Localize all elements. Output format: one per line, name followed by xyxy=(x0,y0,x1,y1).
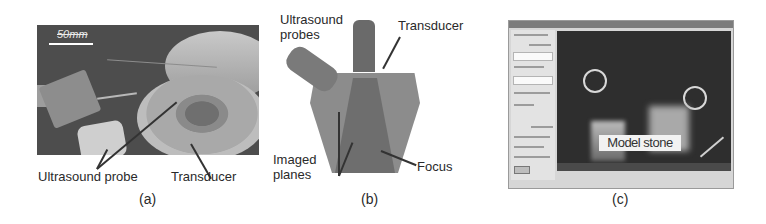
echo-streak xyxy=(700,137,724,158)
label-transducer: Transducer xyxy=(398,19,463,33)
panel-c-software-screenshot: Model stone xyxy=(508,20,734,189)
panel-a-photo: 50mm xyxy=(37,25,259,155)
text-line xyxy=(514,92,550,94)
label-ultrasound-probes: Ultrasound probes xyxy=(280,12,338,42)
ultrasound-image: Model stone xyxy=(557,31,731,171)
text-line xyxy=(531,126,553,128)
caption-c: (c) xyxy=(612,191,628,207)
label-text: Imaged planes xyxy=(273,152,325,182)
text-line xyxy=(514,34,548,36)
button xyxy=(514,166,530,174)
label-imaged-planes: Imaged planes xyxy=(273,152,325,182)
input-field xyxy=(513,52,553,61)
input-field xyxy=(513,76,553,85)
status-bar xyxy=(557,163,731,171)
transducer-body xyxy=(353,20,375,72)
window-titlebar xyxy=(509,21,733,28)
target-circle xyxy=(583,69,607,93)
model-stone-label: Model stone xyxy=(599,135,681,151)
caption-a: (a) xyxy=(139,191,156,207)
leader-line xyxy=(338,112,340,176)
wire xyxy=(97,92,137,100)
text-line xyxy=(514,136,550,138)
scale-bar xyxy=(49,43,93,45)
text-line xyxy=(514,66,544,68)
text-line xyxy=(514,104,534,106)
control-sidebar xyxy=(511,30,555,180)
text-line xyxy=(514,146,544,148)
label-ultrasound-probe: Ultrasound probe xyxy=(38,170,138,184)
label-focus: Focus xyxy=(417,160,452,174)
caption-b: (b) xyxy=(361,191,378,207)
text-line xyxy=(529,44,551,46)
text-line xyxy=(514,156,550,158)
ultrasound-probe-1 xyxy=(39,69,102,129)
scale-bar-label: 50mm xyxy=(57,28,88,40)
label-transducer: Transducer xyxy=(171,170,236,184)
label-text: Ultrasound probes xyxy=(280,12,338,42)
transducer-face xyxy=(137,75,259,155)
